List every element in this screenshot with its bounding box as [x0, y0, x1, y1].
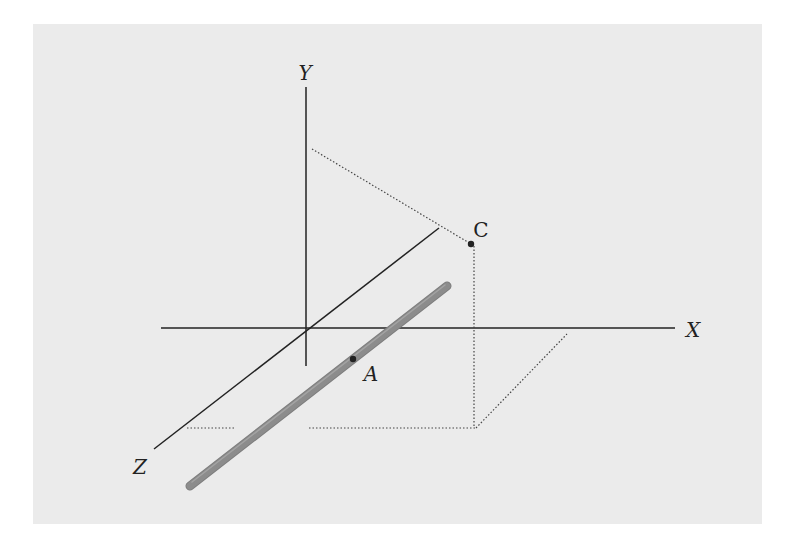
coordinate-diagram: Y X Z C A — [0, 0, 789, 548]
point-a — [350, 356, 356, 362]
y-axis-label: Y — [298, 61, 313, 85]
c-to-y-axis-projection — [312, 149, 471, 244]
rod — [190, 285, 447, 486]
floor-diagonal — [476, 334, 567, 428]
point-a-label: A — [362, 362, 378, 386]
z-axis-label: Z — [132, 455, 148, 479]
point-c-label: C — [473, 218, 488, 242]
projection-lines — [187, 149, 567, 428]
x-axis-label: X — [684, 318, 701, 342]
z-axis — [154, 228, 439, 449]
